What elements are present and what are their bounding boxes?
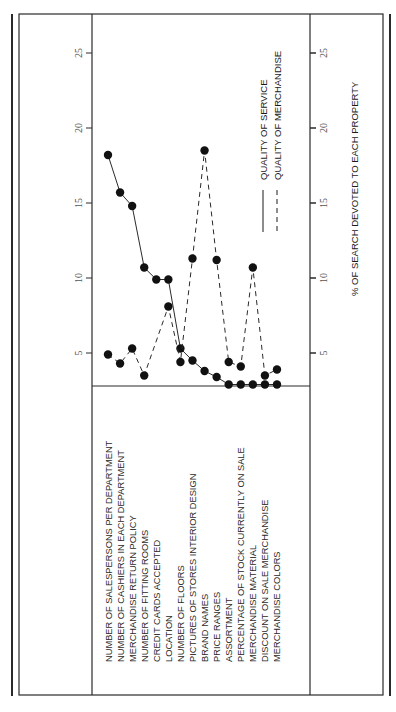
legend-label-merchandise: QUALITY OF MERCHANDISE bbox=[272, 51, 283, 180]
category-label: PRICE RANGES bbox=[212, 592, 222, 662]
data-point bbox=[104, 151, 112, 159]
legend-label-service: QUALITY OF SERVICE bbox=[258, 80, 269, 180]
data-point bbox=[164, 275, 172, 283]
data-point bbox=[116, 188, 124, 196]
right-axis-ticks: 510152025 bbox=[310, 48, 329, 356]
tick-label-left: 10 bbox=[73, 273, 84, 283]
data-point bbox=[140, 371, 148, 379]
tick-label-right: 25 bbox=[318, 48, 329, 58]
tick-label-left: 20 bbox=[73, 123, 84, 133]
category-label: MERCHANDISE MATERIAL bbox=[248, 545, 258, 662]
data-point bbox=[152, 275, 160, 283]
axis-title: % OF SEARCH DEVOTED TO EACH PROPERTY bbox=[349, 81, 360, 296]
data-point bbox=[200, 146, 208, 154]
data-point bbox=[176, 358, 184, 366]
data-point bbox=[237, 362, 245, 370]
tick-label-right: 15 bbox=[318, 198, 329, 208]
category-label: MERCHANDISE COLORS bbox=[272, 551, 282, 662]
tick-label-right: 10 bbox=[318, 273, 329, 283]
left-axis-ticks: 510152025 bbox=[73, 48, 92, 356]
category-label: PICTURES OF STORES INTERIOR DESIGN bbox=[188, 474, 198, 662]
data-point bbox=[188, 254, 196, 262]
data-point bbox=[128, 202, 136, 210]
data-point bbox=[225, 380, 233, 388]
category-label: NUMBER OF SALESPERSONS PER DEPARTMENT bbox=[104, 440, 114, 662]
category-label: PERCENTAGE OF STOCK CURRENTLY ON SALE bbox=[236, 447, 246, 662]
category-label: MERCHANDISE RETURN POLICY bbox=[128, 515, 138, 662]
category-label: ASSORTMENT bbox=[224, 597, 234, 662]
tick-label-left: 25 bbox=[73, 48, 84, 58]
data-point bbox=[128, 344, 136, 352]
data-point bbox=[164, 302, 172, 310]
tick-label-right: 5 bbox=[318, 351, 329, 356]
category-label: LOCATION bbox=[164, 615, 174, 662]
data-point bbox=[261, 371, 269, 379]
data-point bbox=[225, 358, 233, 366]
data-point bbox=[273, 380, 281, 388]
series-quality-of-merchandise bbox=[104, 146, 281, 379]
data-point bbox=[116, 359, 124, 367]
category-label: NUMBER OF FLOORS bbox=[176, 565, 186, 662]
category-label: NUMBER OF FITTING ROOMS bbox=[140, 530, 150, 662]
data-point bbox=[176, 344, 184, 352]
merchandise-line bbox=[108, 151, 277, 376]
tick-label-left: 15 bbox=[73, 198, 84, 208]
category-labels: NUMBER OF SALESPERSONS PER DEPARTMENTNUM… bbox=[104, 440, 283, 662]
tick-label-left: 5 bbox=[73, 351, 84, 356]
data-point bbox=[200, 367, 208, 375]
data-point bbox=[140, 263, 148, 271]
tick-label-right: 20 bbox=[318, 123, 329, 133]
chart-figure: 510152025 510152025 NUMBER OF SALESPERSO… bbox=[0, 0, 396, 712]
data-point bbox=[261, 380, 269, 388]
category-label: BRAND NAMES bbox=[200, 594, 210, 662]
data-point bbox=[104, 350, 112, 358]
data-point bbox=[273, 365, 281, 373]
category-label: NUMBER OF CASHIERS IN EACH DEPARTMENT bbox=[116, 450, 126, 662]
data-point bbox=[249, 263, 257, 271]
data-point bbox=[249, 380, 257, 388]
legend: QUALITY OF SERVICE QUALITY OF MERCHANDIS… bbox=[258, 51, 283, 232]
category-label: CREDIT CARDS ACCEPTED bbox=[152, 539, 162, 662]
category-label: DISCOUNT ON SALE MERCHANDISE bbox=[260, 499, 270, 662]
data-point bbox=[212, 373, 220, 381]
data-point bbox=[212, 256, 220, 264]
data-point bbox=[188, 356, 196, 364]
data-point bbox=[237, 380, 245, 388]
